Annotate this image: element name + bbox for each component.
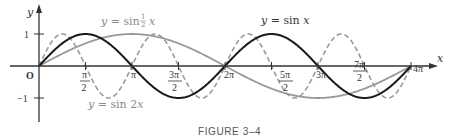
svg-text:2: 2 xyxy=(357,72,362,83)
svg-text:1: 1 xyxy=(141,13,145,21)
x-axis-label: x xyxy=(437,52,444,65)
y-tick-label-1: 1 xyxy=(24,29,29,40)
origin-label: O xyxy=(26,70,34,81)
svg-text:5π: 5π xyxy=(280,69,290,80)
y-axis-label: y xyxy=(26,6,34,19)
label-sin-half-x: y = sin xyxy=(100,15,140,28)
x-tick-label-4pi: 4π xyxy=(413,63,423,74)
x-tick-label-3pi-over-2: 3π 2 xyxy=(168,69,182,93)
y-tick-label-minus1: −1 xyxy=(17,93,28,104)
svg-text:7π: 7π xyxy=(354,59,364,70)
figure-caption: FIGURE 3–4 xyxy=(198,126,261,137)
svg-text:x: x xyxy=(149,15,156,28)
svg-text:2: 2 xyxy=(283,82,288,93)
svg-text:2: 2 xyxy=(172,82,177,93)
x-tick-label-2pi: 2π xyxy=(224,69,234,80)
svg-text:3π: 3π xyxy=(169,69,179,80)
y-axis-arrow-icon xyxy=(36,4,42,13)
figure-3-4-chart: y x 1 −1 O π 2 π 3π 2 2π 5π 2 3π 7π 2 4π xyxy=(0,0,462,139)
x-tick-label-pi: π xyxy=(131,69,136,80)
label-sin-2x: y = sin 2x xyxy=(87,98,144,111)
x-tick-label-5pi-over-2: 5π 2 xyxy=(279,69,293,93)
svg-text:2: 2 xyxy=(82,82,87,93)
label-sin-half-x-fraction: 1 2 x xyxy=(140,13,156,29)
svg-text:2: 2 xyxy=(141,21,145,29)
svg-text:π: π xyxy=(82,69,87,80)
x-tick-label-3pi: 3π xyxy=(316,69,326,80)
label-sin-x: y = sin x xyxy=(260,14,310,27)
